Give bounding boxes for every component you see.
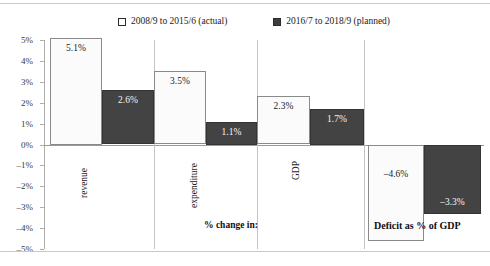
- y-tick-3: 3%: [40, 82, 44, 83]
- bar-value-revenue-planned: 2.6%: [103, 96, 153, 106]
- y-tick-label-4: 4%: [21, 56, 33, 66]
- y-tick-label-5: 5%: [21, 35, 33, 45]
- y-tick-1: 1%: [40, 124, 44, 125]
- group-separator-2: [257, 40, 258, 249]
- y-tick-4: 4%: [40, 61, 44, 62]
- y-tick-neg2: –2%: [40, 186, 44, 187]
- y-tick-2: 2%: [40, 103, 44, 104]
- bar-value-deficit-actual: –4.6%: [369, 170, 423, 180]
- bar-expenditure-actual[interactable]: 3.5%: [154, 71, 206, 144]
- category-label-revenue: revenue: [80, 168, 90, 198]
- y-tick-label-neg2: –2%: [17, 181, 34, 191]
- y-tick-label-2: 2%: [21, 98, 33, 108]
- plot-area: 5% 4% 3% 2% 1% 0% –1% –2% –3% –4% –5% 5.…: [44, 40, 484, 249]
- y-tick-neg5: –5%: [40, 249, 44, 250]
- bar-deficit-planned[interactable]: –3.3%: [424, 145, 481, 214]
- legend-entry-actual[interactable]: 2008/9 to 2015/6 (actual): [118, 17, 227, 27]
- deficit-annotation-label: Deficit as % of GDP: [374, 220, 461, 231]
- bar-expenditure-planned[interactable]: 1.1%: [206, 122, 257, 145]
- white-square-icon: [118, 18, 126, 26]
- y-tick-neg3: –3%: [40, 207, 44, 208]
- bar-value-gdp-actual: 2.3%: [258, 102, 309, 112]
- y-tick-label-1: 1%: [21, 119, 33, 129]
- chart-legend: 2008/9 to 2015/6 (actual) 2016/7 to 2018…: [118, 17, 390, 27]
- bar-value-revenue-actual: 5.1%: [51, 44, 101, 54]
- y-tick-label-3: 3%: [21, 77, 33, 87]
- y-tick-label-0: 0%: [21, 140, 33, 150]
- category-label-expenditure: expenditure: [190, 163, 200, 208]
- y-tick-5: 5%: [40, 40, 44, 41]
- bar-revenue-actual[interactable]: 5.1%: [50, 38, 102, 145]
- group-separator-3: [364, 40, 365, 249]
- bar-value-gdp-planned: 1.7%: [311, 115, 363, 125]
- y-tick-label-neg3: –3%: [17, 202, 34, 212]
- black-square-icon: [273, 18, 281, 26]
- y-tick-neg4: –4%: [40, 228, 44, 229]
- bar-value-expenditure-planned: 1.1%: [207, 128, 256, 138]
- y-tick-label-neg4: –4%: [17, 223, 34, 233]
- top-divider-rule: [0, 3, 490, 4]
- legend-label-actual: 2008/9 to 2015/6 (actual): [131, 17, 227, 27]
- bar-gdp-planned[interactable]: 1.7%: [310, 109, 364, 145]
- category-label-gdp: GDP: [292, 161, 302, 180]
- x-axis-title: % change in:: [204, 220, 258, 230]
- y-tick-label-neg1: –1%: [17, 160, 34, 170]
- y-tick-neg1: –1%: [40, 165, 44, 166]
- bar-revenue-planned[interactable]: 2.6%: [102, 90, 154, 144]
- legend-label-planned: 2016/7 to 2018/9 (planned): [286, 17, 390, 27]
- legend-entry-planned[interactable]: 2016/7 to 2018/9 (planned): [273, 17, 390, 27]
- bar-value-deficit-planned: –3.3%: [425, 198, 480, 208]
- bar-value-expenditure-actual: 3.5%: [155, 77, 205, 87]
- bottom-divider-rule: [0, 251, 490, 252]
- y-tick-label-neg5: –5%: [17, 244, 34, 254]
- bar-gdp-actual[interactable]: 2.3%: [257, 96, 310, 144]
